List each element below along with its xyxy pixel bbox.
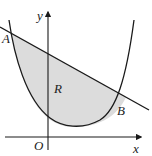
x-axis-label: x [132,141,139,156]
point-b-label: B [117,103,125,118]
diagram-canvas: y x O A B R [0,0,152,156]
point-a-label: A [1,31,10,46]
region-r-label: R [53,81,62,96]
origin-label: O [34,138,44,153]
y-axis-label: y [35,8,43,23]
region-r-shading [11,33,126,127]
